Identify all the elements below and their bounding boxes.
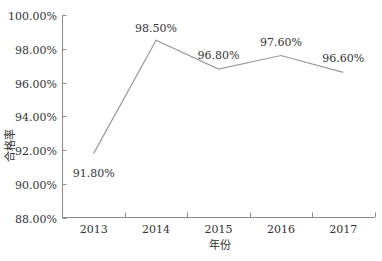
y-tick-label: 90.00% (15, 179, 57, 192)
data-label: 91.80% (73, 167, 115, 180)
x-tick-label: 2013 (80, 223, 108, 236)
y-tick-label: 94.00% (15, 111, 57, 124)
x-axis-ticks: 20132014201520162017 (80, 213, 376, 237)
x-tick-label: 2016 (267, 223, 295, 236)
y-tick-label: 88.00% (15, 213, 57, 226)
y-tick-label: 92.00% (15, 145, 57, 158)
y-axis-ticks: 88.00%90.00%92.00%94.00%96.00%98.00%100.… (8, 10, 66, 226)
data-label: 96.60% (322, 52, 364, 65)
y-axis-title: 合格率 (3, 129, 17, 162)
x-tick-label: 2017 (329, 223, 357, 236)
x-axis-title: 年份 (209, 238, 231, 252)
data-labels: 91.80%98.50%96.80%97.60%96.60% (73, 22, 365, 180)
data-label: 98.50% (135, 22, 177, 35)
y-tick-label: 100.00% (8, 10, 57, 23)
x-tick-label: 2014 (142, 223, 170, 236)
line-chart: 88.00%90.00%92.00%94.00%96.00%98.00%100.… (0, 0, 382, 261)
x-tick-label: 2015 (205, 223, 233, 236)
data-label: 97.60% (260, 36, 302, 49)
data-label: 96.80% (198, 49, 240, 62)
y-tick-label: 96.00% (15, 78, 57, 91)
y-tick-label: 98.00% (15, 44, 57, 57)
